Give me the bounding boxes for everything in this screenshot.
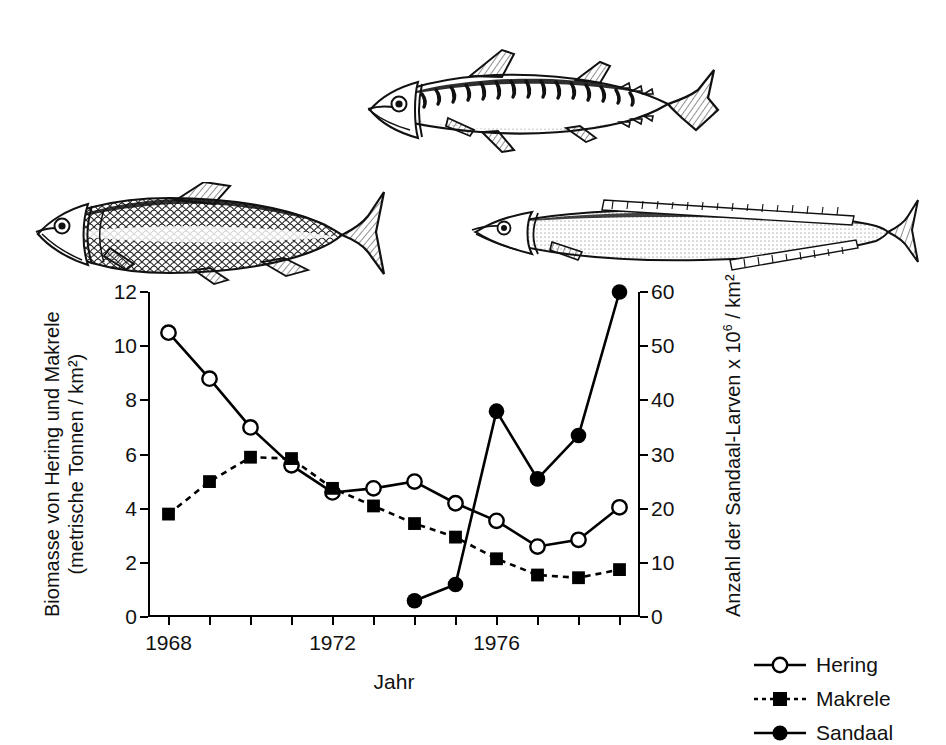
legend-item-makrele: Makrele [752, 682, 932, 716]
data-point-sandaal [489, 403, 505, 419]
fish-biomass-chart: 024681012 0102030405060 196819721976 Jah… [0, 270, 946, 707]
chart-legend: Hering Makrele Sandaal [752, 648, 932, 745]
x-tick-1968 [168, 617, 170, 625]
data-point-hering [243, 420, 257, 434]
data-point-makrele [572, 571, 585, 584]
data-point-hering [161, 325, 175, 339]
right-tick-label-10: 10 [651, 552, 674, 573]
x-tick-1973 [373, 617, 375, 625]
data-point-sandaal [530, 471, 546, 487]
left-tick-label-8: 8 [125, 389, 137, 410]
left-tick-0 [140, 616, 148, 618]
right-tick-label-50: 50 [651, 335, 674, 356]
left-y-axis-title-line2: (metrische Tonnen / km²) [64, 354, 88, 575]
data-point-hering [202, 371, 216, 385]
x-tick-1975 [455, 617, 457, 625]
data-point-makrele [613, 563, 626, 576]
data-point-makrele [285, 452, 298, 465]
legend-label-sandaal: Sandaal [816, 721, 893, 745]
data-series-layer [148, 292, 640, 617]
left-tick-8 [140, 399, 148, 401]
data-point-hering [530, 539, 544, 553]
data-point-hering [612, 500, 626, 514]
legend-symbol-filled-square [752, 688, 808, 710]
data-point-hering [571, 533, 585, 547]
x-tick-1978 [578, 617, 580, 625]
right-tick-60 [640, 291, 648, 293]
legend-item-sandaal: Sandaal [752, 716, 932, 745]
data-point-makrele [531, 569, 544, 582]
left-tick-4 [140, 508, 148, 510]
data-point-hering [366, 481, 380, 495]
x-tick-1971 [291, 617, 293, 625]
left-y-axis-title-line1: Biomasse von Hering und Makrele [40, 311, 64, 617]
right-y-axis-title-post: / km² [722, 274, 744, 324]
x-tick-1972 [332, 617, 334, 625]
left-tick-label-4: 4 [125, 498, 137, 519]
right-tick-0 [640, 616, 648, 618]
series-line-makrele [169, 457, 620, 578]
right-tick-10 [640, 562, 648, 564]
left-tick-label-6: 6 [125, 444, 137, 465]
right-y-axis-title-exponent: 6 [721, 324, 735, 331]
right-y-axis-title: Anzahl der Sandaal-Larven x 106 / km² [716, 274, 745, 617]
left-tick-label-2: 2 [125, 552, 137, 573]
right-tick-label-0: 0 [651, 606, 663, 627]
right-tick-label-20: 20 [651, 498, 674, 519]
left-tick-label-12: 12 [114, 281, 137, 302]
legend-item-hering: Hering [752, 648, 932, 682]
series-line-sandaal [415, 292, 620, 601]
data-point-makrele [490, 552, 503, 565]
data-point-makrele [449, 531, 462, 544]
legend-label-hering: Hering [816, 653, 878, 677]
data-point-sandaal [612, 284, 628, 300]
right-tick-50 [640, 345, 648, 347]
x-axis-title: Jahr [148, 670, 640, 694]
sandeel-illustration [452, 188, 922, 283]
data-point-sandaal [448, 577, 464, 593]
data-point-hering [407, 474, 421, 488]
data-point-makrele [367, 500, 380, 513]
right-tick-40 [640, 399, 648, 401]
right-y-axis-title-pre: Anzahl der Sandaal-Larven x 10 [722, 331, 744, 617]
series-makrele [162, 451, 626, 584]
x-tick-1979 [619, 617, 621, 625]
legend-label-makrele: Makrele [816, 687, 891, 711]
x-tick-label-1968: 1968 [145, 632, 192, 653]
left-tick-12 [140, 291, 148, 293]
series-hering [161, 325, 626, 553]
data-point-makrele [326, 482, 339, 495]
right-tick-20 [640, 508, 648, 510]
x-tick-label-1976: 1976 [473, 632, 520, 653]
data-point-makrele [408, 517, 421, 530]
right-tick-30 [640, 454, 648, 456]
plot-area: 024681012 0102030405060 196819721976 Jah… [148, 292, 640, 617]
mackerel-illustration [352, 36, 722, 166]
data-point-hering [489, 514, 503, 528]
legend-symbol-filled-circle [752, 722, 808, 744]
x-tick-1970 [250, 617, 252, 625]
x-tick-label-1972: 1972 [309, 632, 356, 653]
x-tick-1969 [209, 617, 211, 625]
data-point-hering [448, 496, 462, 510]
left-tick-6 [140, 454, 148, 456]
right-tick-label-30: 30 [651, 444, 674, 465]
data-point-makrele [203, 475, 216, 488]
data-point-makrele [244, 451, 257, 464]
left-tick-10 [140, 345, 148, 347]
left-tick-label-0: 0 [125, 606, 137, 627]
x-tick-1977 [537, 617, 539, 625]
right-tick-label-40: 40 [651, 389, 674, 410]
x-tick-1976 [496, 617, 498, 625]
right-tick-label-60: 60 [651, 281, 674, 302]
data-point-sandaal [571, 428, 587, 444]
data-point-sandaal [407, 593, 423, 609]
data-point-makrele [162, 508, 175, 521]
left-tick-2 [140, 562, 148, 564]
legend-symbol-open-circle [752, 654, 808, 676]
left-y-axis-title: Biomasse von Hering und Makrele (metrisc… [40, 311, 88, 617]
left-tick-label-10: 10 [114, 335, 137, 356]
series-sandaal [407, 284, 628, 608]
x-tick-1974 [414, 617, 416, 625]
